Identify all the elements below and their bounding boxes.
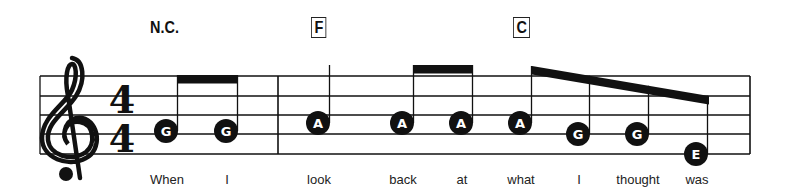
svg-text:4: 4 [109, 116, 135, 161]
notehead-a: A [390, 111, 414, 135]
svg-text:G: G [161, 124, 172, 139]
svg-text:G: G [632, 127, 643, 142]
notehead-g: G [566, 122, 590, 146]
lyric-syllable: back [389, 172, 416, 187]
chord-symbol: C [513, 17, 530, 38]
svg-text:A: A [397, 116, 407, 131]
notehead-g: G [154, 119, 178, 143]
beam [532, 66, 709, 105]
notehead-g: G [625, 122, 649, 146]
lyric-syllable: was [685, 172, 708, 187]
beam [177, 75, 238, 84]
time-signature: 4 4 [109, 77, 135, 161]
note-beams [177, 65, 709, 105]
notehead-e: E [684, 142, 708, 166]
svg-text:A: A [515, 116, 525, 131]
notehead-g: G [214, 119, 238, 143]
svg-text:A: A [313, 116, 323, 131]
svg-text:E: E [692, 147, 701, 162]
notehead-a: A [449, 111, 473, 135]
lyric-syllable: what [507, 172, 534, 187]
music-score: 4 4 GGAAAAGGE [0, 0, 790, 195]
beam [414, 65, 473, 74]
lyric-syllable: I [577, 172, 581, 187]
lyric-syllable: at [457, 172, 468, 187]
notehead-a: A [508, 111, 532, 135]
svg-text:G: G [221, 124, 232, 139]
lyric-syllable: I [225, 172, 229, 187]
lyric-syllable: look [307, 172, 331, 187]
chord-symbol: N.C. [150, 19, 179, 36]
lyric-syllable: When [150, 172, 184, 187]
lyric-syllable: thought [616, 172, 659, 187]
svg-text:G: G [573, 127, 584, 142]
notehead-a: A [306, 111, 330, 135]
svg-text:A: A [456, 116, 466, 131]
chord-symbol: F [311, 17, 327, 38]
